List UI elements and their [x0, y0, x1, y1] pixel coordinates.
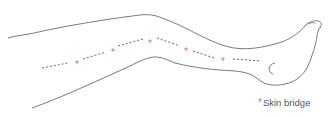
- skin-bridge-marker-icon: *: [111, 47, 115, 58]
- skin-bridge-marker-icon: *: [75, 59, 79, 70]
- legend: *Skin bridge: [258, 97, 310, 108]
- skin-bridge-marker-icon: *: [184, 46, 188, 57]
- leg-outline: [8, 15, 321, 108]
- skin-bridge-markers: * * * * *: [75, 38, 225, 70]
- leg-upper-outline: [8, 15, 321, 49]
- heel-circle-icon: [269, 63, 275, 74]
- legend-label: Skin bridge: [263, 97, 311, 108]
- toes-outline: [305, 23, 316, 27]
- skin-bridge-marker-icon: *: [148, 38, 152, 49]
- skin-bridge-legend-icon: *: [258, 97, 262, 108]
- skin-bridge-marker-icon: *: [221, 56, 225, 67]
